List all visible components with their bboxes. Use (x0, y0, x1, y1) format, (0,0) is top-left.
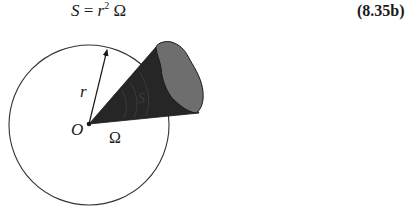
radius-label: r (80, 82, 87, 101)
surface-label: S (138, 91, 145, 106)
solid-angle-diagram: r O Ω S (0, 0, 417, 208)
solid-angle-label: Ω (109, 129, 121, 146)
origin-label: O (71, 120, 83, 139)
origin-dot (87, 122, 92, 127)
